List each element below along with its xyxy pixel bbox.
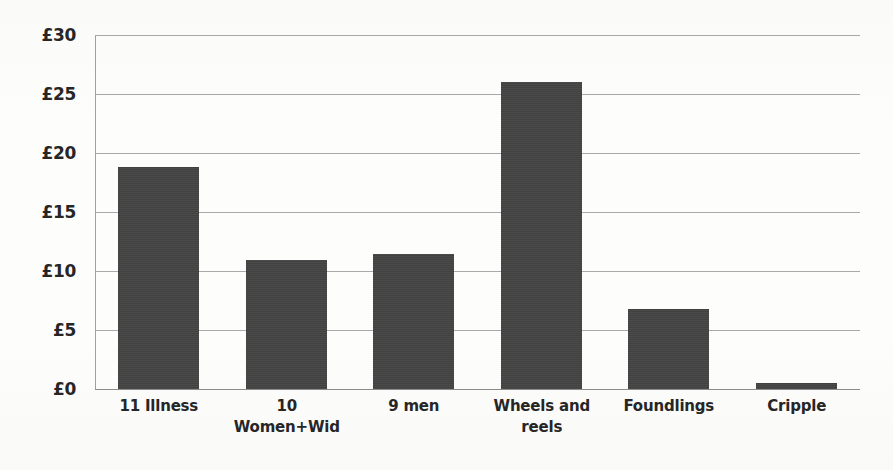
x-tick-label: 11 Illness (95, 396, 223, 417)
bar-chart-figure: £0£5£10£15£20£25£30 11 Illness10 Women+W… (0, 0, 893, 470)
y-axis-labels: £0£5£10£15£20£25£30 (0, 35, 76, 389)
x-axis-labels: 11 Illness10 Women+Wid9 menWheels andree… (95, 396, 860, 458)
y-tick-label: £5 (6, 320, 76, 340)
y-tick-label: £0 (6, 379, 76, 399)
x-tick-label-line: Foundlings (605, 396, 733, 417)
bar (501, 82, 582, 389)
bar (246, 260, 327, 389)
x-tick-label-line: 11 Illness (95, 396, 223, 417)
y-tick-label: £20 (6, 143, 76, 163)
x-tick-label-line: 10 Women+Wid (223, 396, 351, 438)
x-tick-label: Cripple (733, 396, 861, 417)
y-tick-label: £30 (6, 25, 76, 45)
x-tick-label: 9 men (350, 396, 478, 417)
x-tick-label-line: reels (478, 417, 606, 438)
bar (118, 167, 199, 389)
y-tick-label: £25 (6, 84, 76, 104)
x-tick-label: Foundlings (605, 396, 733, 417)
bar (628, 309, 709, 389)
x-tick-label-line: Cripple (733, 396, 861, 417)
x-tick-label: Wheels andreels (478, 396, 606, 438)
bars-layer (95, 35, 860, 389)
x-axis-baseline (95, 389, 860, 390)
bar (756, 383, 837, 389)
x-tick-label-line: Wheels and (478, 396, 606, 417)
x-tick-label: 10 Women+Wid (223, 396, 351, 438)
y-tick-label: £10 (6, 261, 76, 281)
x-tick-label-line: 9 men (350, 396, 478, 417)
y-tick-label: £15 (6, 202, 76, 222)
bar (373, 254, 454, 389)
